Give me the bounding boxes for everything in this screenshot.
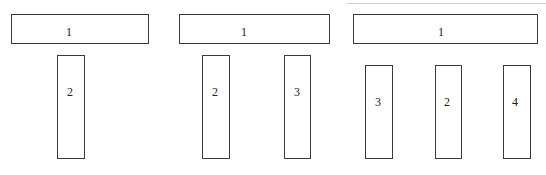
bar-label: 3 (294, 86, 300, 98)
top-box (179, 14, 330, 44)
bar-box (57, 55, 85, 159)
bar-box (365, 65, 393, 159)
bar-label: 4 (512, 96, 518, 108)
top-box (353, 14, 538, 44)
top-box (11, 14, 149, 44)
bar-box (435, 65, 462, 159)
top-box-label: 1 (241, 26, 247, 38)
top-box-label: 1 (66, 26, 72, 38)
bar-label: 3 (375, 96, 381, 108)
bar-box (503, 65, 531, 159)
bar-label: 2 (67, 86, 73, 98)
bar-label: 2 (444, 96, 450, 108)
bar-box (202, 55, 230, 159)
top-divider-line (347, 3, 546, 4)
top-box-label: 1 (438, 26, 444, 38)
bar-box (284, 55, 311, 159)
bar-label: 2 (212, 86, 218, 98)
